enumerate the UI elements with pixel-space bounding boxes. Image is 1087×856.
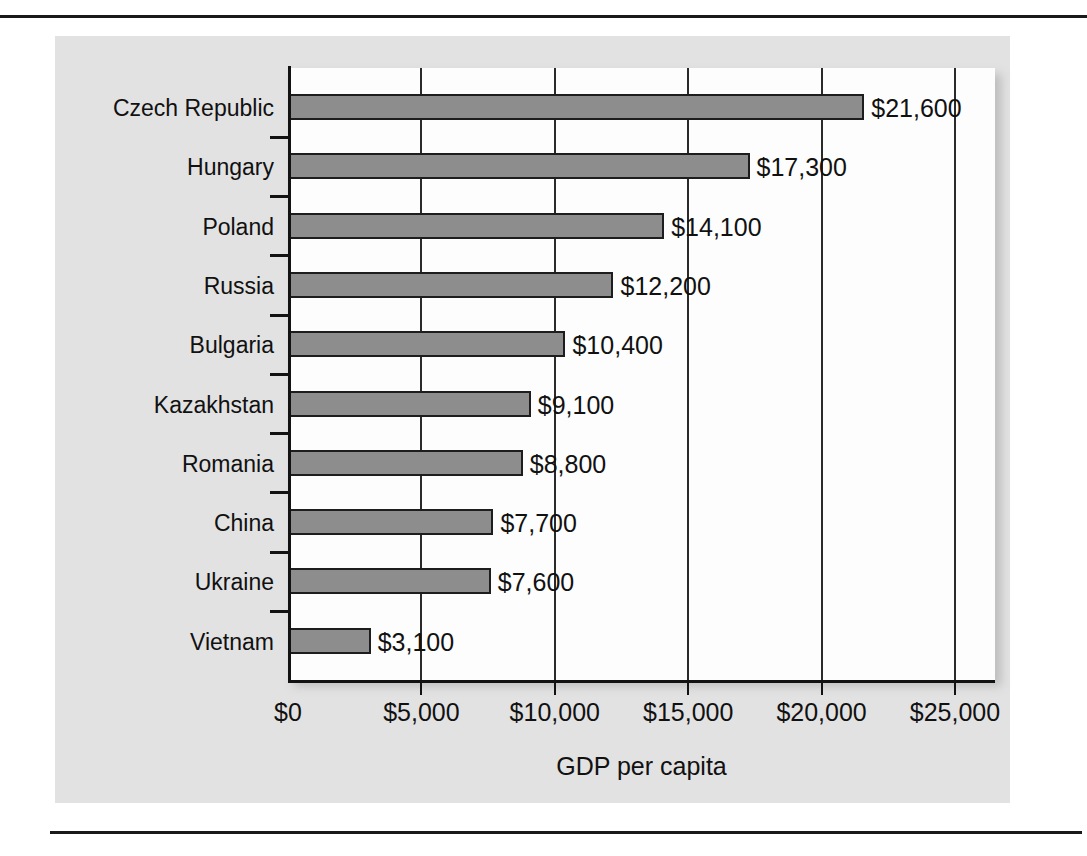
bar bbox=[288, 153, 750, 179]
bar bbox=[288, 628, 371, 654]
page-rule-top bbox=[0, 15, 1087, 18]
bar bbox=[288, 509, 493, 535]
x-axis-tick bbox=[954, 683, 956, 695]
category-label: Bulgaria bbox=[0, 332, 274, 358]
x-axis-tick bbox=[554, 683, 556, 695]
bar-value-label: $14,100 bbox=[671, 214, 761, 240]
category-label: Poland bbox=[0, 214, 274, 240]
category-label: Vietnam bbox=[0, 629, 274, 655]
category-label: Czech Republic bbox=[0, 95, 274, 121]
bar bbox=[288, 568, 491, 594]
bar-value-label: $3,100 bbox=[378, 629, 454, 655]
y-axis-tick bbox=[270, 254, 288, 257]
y-axis-tick bbox=[270, 195, 288, 198]
bar-value-label: $12,200 bbox=[620, 273, 710, 299]
y-axis-tick bbox=[270, 491, 288, 494]
x-axis-tick-label: $25,000 bbox=[855, 697, 1055, 727]
category-label: Hungary bbox=[0, 154, 274, 180]
y-axis-tick bbox=[270, 373, 288, 376]
gridline bbox=[954, 68, 956, 680]
bar-value-label: $10,400 bbox=[572, 332, 662, 358]
bar-value-label: $21,600 bbox=[871, 95, 961, 121]
bar bbox=[288, 450, 523, 476]
x-axis-line bbox=[288, 680, 995, 683]
x-axis-tick bbox=[420, 683, 422, 695]
y-axis-line bbox=[288, 66, 291, 682]
page-rule-bottom bbox=[50, 831, 1082, 834]
y-axis-tick bbox=[270, 136, 288, 139]
bar bbox=[288, 331, 565, 357]
category-label: Ukraine bbox=[0, 569, 274, 595]
bar-value-label: $8,800 bbox=[530, 451, 606, 477]
bar-value-label: $7,600 bbox=[498, 569, 574, 595]
bar bbox=[288, 213, 664, 239]
category-label: Russia bbox=[0, 273, 274, 299]
bar-value-label: $17,300 bbox=[757, 154, 847, 180]
x-axis-title: GDP per capita bbox=[288, 751, 995, 781]
y-axis-tick bbox=[270, 610, 288, 613]
category-label: Kazakhstan bbox=[0, 392, 274, 418]
x-axis-tick bbox=[687, 683, 689, 695]
bar-value-label: $9,100 bbox=[538, 392, 614, 418]
bar bbox=[288, 94, 864, 120]
bar bbox=[288, 272, 613, 298]
category-label: Romania bbox=[0, 451, 274, 477]
y-axis-tick bbox=[270, 551, 288, 554]
bar-value-label: $7,700 bbox=[500, 510, 576, 536]
y-axis-tick bbox=[270, 314, 288, 317]
x-axis-tick bbox=[821, 683, 823, 695]
category-label: China bbox=[0, 510, 274, 536]
y-axis-tick bbox=[270, 432, 288, 435]
bar bbox=[288, 391, 531, 417]
